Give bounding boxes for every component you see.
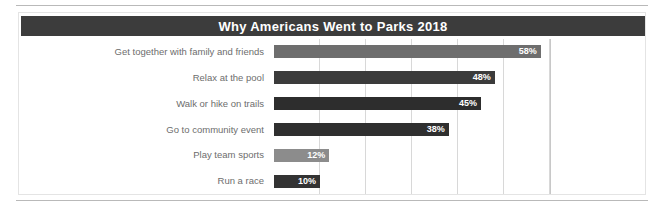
bar-value-label: 48% bbox=[473, 73, 495, 82]
bar: 48% bbox=[274, 71, 495, 84]
bar: 38% bbox=[274, 123, 449, 136]
top-divider bbox=[16, 5, 648, 6]
chart-plot-wrapper: Get together with family and friendsRela… bbox=[19, 39, 645, 194]
bottom-divider bbox=[16, 200, 648, 201]
bar-value-label: 12% bbox=[307, 151, 329, 160]
category-label: Run a race bbox=[19, 176, 272, 186]
chart-page: Why Americans Went to Parks 2018 Get tog… bbox=[0, 0, 664, 211]
bar-series: 58%48%45%38%12%10% bbox=[274, 39, 550, 194]
bar: 12% bbox=[274, 149, 329, 162]
chart-card: Why Americans Went to Parks 2018 Get tog… bbox=[18, 12, 646, 195]
bar: 10% bbox=[274, 175, 320, 188]
bar: 45% bbox=[274, 97, 481, 110]
bar: 58% bbox=[274, 45, 541, 58]
bar-value-label: 10% bbox=[298, 177, 320, 186]
category-label: Walk or hike on trails bbox=[19, 99, 272, 109]
bar-value-label: 38% bbox=[427, 125, 449, 134]
chart-header-bar: Why Americans Went to Parks 2018 bbox=[21, 16, 645, 36]
category-label: Relax at the pool bbox=[19, 73, 272, 83]
bar-value-label: 58% bbox=[519, 47, 541, 56]
category-label: Play team sports bbox=[19, 150, 272, 160]
category-label: Get together with family and friends bbox=[19, 47, 272, 57]
bar-value-label: 45% bbox=[459, 99, 481, 108]
category-label: Go to community event bbox=[19, 125, 272, 135]
chart-title: Why Americans Went to Parks 2018 bbox=[218, 19, 447, 34]
